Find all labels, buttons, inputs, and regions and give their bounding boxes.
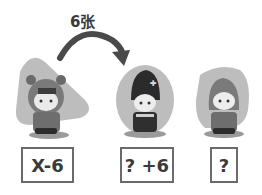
bear-hood-child-figure xyxy=(16,58,89,139)
curved-arrow-icon xyxy=(60,34,130,66)
hooded-child-figure xyxy=(196,67,249,138)
label-box-left: X-6 xyxy=(21,147,74,183)
arrow-label: 6张 xyxy=(70,10,95,31)
label-box-middle: ? +6 xyxy=(120,147,174,183)
black-hat-child-figure: ✚ xyxy=(116,65,174,138)
svg-text:✚: ✚ xyxy=(150,79,157,88)
label-box-right: ? xyxy=(210,147,238,183)
